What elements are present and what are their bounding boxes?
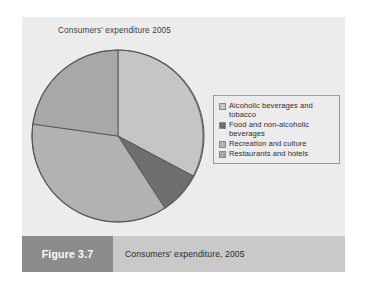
pie-slice-restaurants[interactable] [33, 50, 118, 136]
figure-caption-bar: Figure 3.7 Consumers' expenditure, 2005 [22, 236, 345, 272]
legend-label-food: Food and non-alcoholic beverages [229, 120, 335, 138]
legend-label-alcoholic: Alcoholic beverages and tobacco [229, 101, 335, 119]
figure-panel: Consumers' expenditure 2005 [22, 17, 345, 272]
legend-item-recreation[interactable]: Recreation and culture [219, 139, 335, 148]
chart-legend: Alcoholic beverages and tobacco Food and… [213, 95, 340, 164]
figure-number-label: Figure 3.7 [42, 248, 94, 260]
figure-caption-block: Consumers' expenditure, 2005 [113, 236, 345, 272]
legend-item-food[interactable]: Food and non-alcoholic beverages [219, 120, 335, 138]
legend-label-recreation: Recreation and culture [229, 139, 307, 148]
figure-caption-text: Consumers' expenditure, 2005 [125, 249, 245, 259]
legend-label-restaurants: Restaurants and hotels [229, 149, 308, 158]
chart-plot-area: Consumers' expenditure 2005 [22, 17, 345, 236]
pie-chart-svg [31, 48, 207, 225]
chart-title: Consumers' expenditure 2005 [58, 26, 171, 35]
legend-item-restaurants[interactable]: Restaurants and hotels [219, 149, 335, 158]
pie-chart [31, 48, 207, 225]
legend-swatch-food [219, 122, 226, 129]
figure-container: Consumers' expenditure 2005 [0, 0, 370, 291]
legend-swatch-alcoholic [219, 103, 226, 110]
legend-swatch-restaurants [219, 151, 226, 158]
legend-swatch-recreation [219, 141, 226, 148]
legend-item-alcoholic[interactable]: Alcoholic beverages and tobacco [219, 101, 335, 119]
figure-number-block: Figure 3.7 [22, 236, 113, 272]
